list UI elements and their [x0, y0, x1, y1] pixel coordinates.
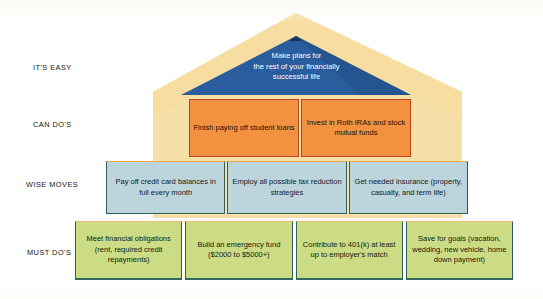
tier-cell[interactable]: Finish paying off student loans — [189, 99, 299, 157]
roof-caption-line: the rest of your financially — [215, 62, 378, 73]
tier-cell[interactable]: Meet financial obligations (rent, requir… — [75, 221, 182, 280]
tier-cell[interactable]: Invest in Roth IRAs and stock mutual fun… — [301, 99, 411, 157]
tier-row-can-dos: Finish paying off student loans Invest i… — [189, 99, 411, 157]
financial-planning-house-diagram: IT'S EASY CAN DO'S WISE MOVES MUST DO'S … — [0, 0, 543, 299]
roof-caption: Make plans for the rest of your financia… — [215, 51, 378, 83]
roof-caption-line: Make plans for — [215, 51, 378, 62]
tier-label-must-dos: MUST DO'S — [27, 248, 71, 257]
tier-label-its-easy: IT'S EASY — [33, 63, 72, 72]
tier-cell[interactable]: Employ all possible tax reduction strate… — [227, 161, 346, 214]
tier-cell[interactable]: Pay off credit card balances in full eve… — [106, 161, 225, 214]
tier-cell[interactable]: Contribute to 401(k) at least up to empl… — [296, 221, 403, 280]
tier-row-must-dos: Meet financial obligations (rent, requir… — [75, 221, 513, 280]
tier-label-wise-moves: WISE MOVES — [26, 180, 78, 189]
tier-row-wise-moves: Pay off credit card balances in full eve… — [106, 161, 468, 214]
roof-caption-line: successful life — [215, 72, 378, 83]
tier-label-can-dos: CAN DO'S — [33, 120, 72, 129]
tier-cell[interactable]: Get needed insurance (property, casualty… — [349, 161, 468, 214]
tier-cell[interactable]: Save for goals (vacation, wedding, new v… — [406, 221, 513, 280]
tier-cell[interactable]: Build an emergency fund ($2000 to $5000+… — [185, 221, 292, 280]
roof-ridge — [289, 36, 303, 41]
